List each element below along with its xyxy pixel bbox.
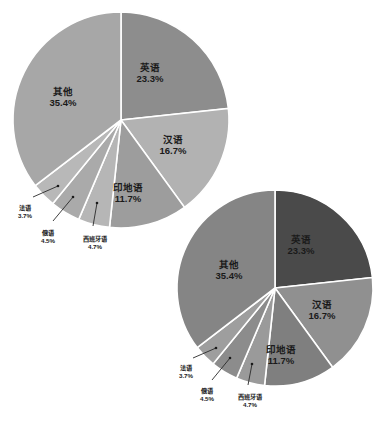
slice-label: 其他35.4% [216, 259, 243, 281]
slice-label: 英语23.3% [288, 234, 315, 256]
slice-label: 俄语4.5% [41, 229, 56, 244]
leader-dot [57, 185, 60, 188]
leader-dot [215, 347, 218, 350]
slice-label: 法语3.7% [18, 204, 33, 219]
leader-dot [96, 202, 99, 205]
slice-label: 印地语11.7% [113, 182, 143, 204]
slice-label: 俄语4.5% [200, 387, 215, 402]
leader-dot [229, 357, 232, 360]
pie-slice[interactable] [121, 12, 228, 120]
leader-dot [72, 196, 75, 199]
slice-label: 英语23.3% [137, 62, 164, 84]
leader-dot [251, 363, 254, 366]
pie-chart-top-left: 英语23.3%汉语16.7%印地语11.7%西班牙语4.7%俄语4.5%法语3.… [13, 12, 229, 249]
slice-label: 法语3.7% [179, 364, 194, 379]
slice-label: 西班牙语4.7% [83, 235, 108, 250]
slice-label: 汉语16.7% [309, 299, 336, 321]
pie-slice[interactable] [275, 190, 372, 288]
slice-label: 印地语11.7% [266, 344, 296, 366]
chart-canvas: 英语23.3%汉语16.7%印地语11.7%西班牙语4.7%俄语4.5%法语3.… [0, 0, 386, 441]
slice-label: 其他35.4% [50, 86, 77, 108]
slice-label: 西班牙语4.7% [238, 393, 263, 408]
slice-label: 汉语16.7% [160, 134, 187, 156]
pie-chart-figure: 英语23.3%汉语16.7%印地语11.7%西班牙语4.7%俄语4.5%法语3.… [0, 0, 386, 441]
pie-chart-bottom-right: 英语23.3%汉语16.7%印地语11.7%西班牙语4.7%俄语4.5%法语3.… [177, 190, 373, 407]
